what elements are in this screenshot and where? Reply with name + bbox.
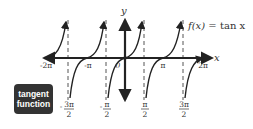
tangent-function-badge: tangent function — [14, 84, 53, 114]
tick-neg-2pi: -2π — [40, 61, 52, 70]
branch-1 — [46, 22, 66, 58]
minus-sign-2: - — [100, 102, 103, 111]
asymptote-labels: - 3π 2 - π 2 π 2 3π 2 — [60, 100, 189, 119]
tick-neg-pi: -π — [84, 61, 92, 70]
label-pi-num: π — [143, 100, 148, 109]
branch-2 — [70, 22, 104, 98]
label-neg-3pi-num: 3π — [64, 100, 74, 109]
tick-pi: π — [161, 61, 166, 70]
tick-2pi: 2π — [198, 61, 208, 70]
label-neg-pi-den: 2 — [105, 110, 110, 119]
y-axis-label: y — [120, 5, 127, 16]
x-axis-label: x — [214, 52, 220, 63]
badge-line-2: function — [14, 99, 53, 109]
badge-line-1: tangent — [14, 89, 53, 99]
tick-zero: 0 — [116, 61, 121, 70]
function-rhs: tan x — [220, 20, 245, 31]
minus-sign-1: - — [60, 102, 63, 111]
label-neg-3pi-den: 2 — [67, 110, 72, 119]
label-neg-pi-num: π — [105, 100, 110, 109]
label-3pi-num: 3π — [179, 100, 189, 109]
label-3pi-den: 2 — [182, 110, 187, 119]
label-pi-den: 2 — [143, 110, 148, 119]
function-name: f(x) — [188, 20, 205, 31]
function-label: f(x) = tan x — [188, 20, 245, 31]
branch-4 — [146, 22, 181, 98]
